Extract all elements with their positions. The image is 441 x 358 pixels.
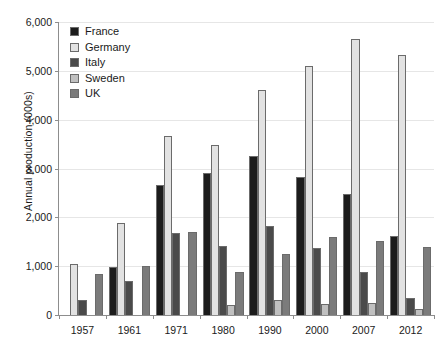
bar-sweden-2000: [321, 304, 329, 315]
x-tick-mark: [59, 315, 60, 319]
x-tick-label: 1961: [118, 324, 141, 336]
x-tick-mark: [153, 315, 154, 319]
bar-group: [343, 22, 385, 315]
x-tick-mark: [434, 315, 435, 319]
bar-germany-1980: [211, 145, 219, 315]
x-tick-label: 1957: [71, 324, 94, 336]
bar-italy-1971: [172, 233, 180, 315]
legend-label: Sweden: [85, 73, 125, 84]
x-tick-label: 1990: [258, 324, 281, 336]
bar-sweden-2012: [415, 309, 423, 315]
legend-item-sweden[interactable]: Sweden: [70, 72, 130, 85]
y-tick-label: 2,000: [26, 211, 52, 223]
y-tick-label: 1,000: [26, 260, 52, 272]
bar-uk-2007: [376, 241, 384, 315]
bar-germany-2007: [351, 39, 359, 315]
legend-item-uk[interactable]: UK: [70, 87, 130, 100]
x-tick-mark: [387, 315, 388, 319]
x-tick-label: 1980: [211, 324, 234, 336]
bar-group: [390, 22, 432, 315]
bar-germany-2012: [398, 55, 406, 315]
legend-item-france[interactable]: France: [70, 25, 130, 38]
bar-sweden-1990: [274, 300, 282, 315]
bar-france-1971: [156, 185, 164, 315]
bar-uk-1957: [95, 274, 103, 316]
bar-italy-2000: [313, 248, 321, 315]
x-tick-mark: [340, 315, 341, 319]
legend-swatch-icon: [70, 43, 79, 52]
y-tick-label: 4,000: [26, 114, 52, 126]
legend-swatch-icon: [70, 74, 79, 83]
x-tick-mark: [247, 315, 248, 319]
bar-germany-2000: [305, 66, 313, 315]
legend-swatch-icon: [70, 58, 79, 67]
chart-figure: Annual production (000s) 01,0002,0003,00…: [0, 0, 441, 358]
legend-label: UK: [85, 88, 100, 99]
x-tick-mark: [106, 315, 107, 319]
x-tick-label: 2000: [305, 324, 328, 336]
bar-uk-2012: [423, 247, 431, 315]
bar-group: [155, 22, 197, 315]
legend-item-germany[interactable]: Germany: [70, 41, 130, 54]
bar-france-2007: [343, 194, 351, 315]
bar-france-2000: [296, 177, 304, 315]
legend-item-italy[interactable]: Italy: [70, 56, 130, 69]
x-tick-mark: [200, 315, 201, 319]
bar-france-1990: [249, 156, 257, 315]
bar-uk-1980: [235, 272, 243, 315]
x-tick-label: 2007: [352, 324, 375, 336]
bar-italy-2007: [360, 272, 368, 315]
legend-label: France: [85, 26, 119, 37]
bar-germany-1957: [70, 264, 78, 315]
bar-italy-1990: [266, 226, 274, 315]
bar-germany-1990: [258, 90, 266, 315]
bar-germany-1971: [164, 136, 172, 315]
legend-label: Germany: [85, 42, 130, 53]
x-tick-label: 2012: [399, 324, 422, 336]
x-tick-label: 1971: [165, 324, 188, 336]
bar-italy-1957: [78, 300, 86, 315]
x-tick-mark: [293, 315, 294, 319]
bar-group: [249, 22, 291, 315]
bar-uk-1971: [188, 232, 196, 315]
y-tick-label: 3,000: [26, 163, 52, 175]
legend-label: Italy: [85, 57, 105, 68]
bar-italy-1961: [125, 281, 133, 315]
bar-france-1961: [109, 267, 117, 315]
bar-france-2012: [390, 236, 398, 315]
legend-swatch-icon: [70, 89, 79, 98]
bar-group: [296, 22, 338, 315]
bar-italy-1980: [219, 246, 227, 315]
y-tick-label: 6,000: [26, 16, 52, 28]
bar-uk-1990: [282, 254, 290, 315]
bar-germany-1961: [117, 223, 125, 315]
bar-sweden-2007: [368, 303, 376, 315]
bar-italy-2012: [406, 298, 414, 315]
legend-swatch-icon: [70, 27, 79, 36]
bar-uk-2000: [329, 237, 337, 315]
bar-sweden-1980: [227, 305, 235, 315]
bar-group: [202, 22, 244, 315]
bar-uk-1961: [142, 266, 150, 315]
chart-legend: FranceGermanyItalySwedenUK: [70, 25, 130, 100]
bar-france-1980: [203, 173, 211, 315]
y-tick-label: 0: [46, 309, 52, 321]
y-tick-label: 5,000: [26, 65, 52, 77]
